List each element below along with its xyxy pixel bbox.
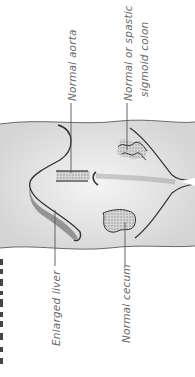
label-normal-cecum: Normal cecum: [120, 264, 132, 343]
label-enlarged-liver: Enlarged liver: [50, 270, 62, 346]
cecum: [103, 210, 136, 233]
title-fragment: [0, 255, 6, 377]
label-normal-aorta: Normal aorta: [66, 29, 78, 101]
label-sigmoid-line1: Normal or spastic: [122, 5, 134, 101]
partial-title-cutoff: [0, 255, 6, 377]
label-sigmoid-line2: sigmoid colon: [138, 22, 150, 97]
abdomen-illustration: [0, 0, 195, 377]
